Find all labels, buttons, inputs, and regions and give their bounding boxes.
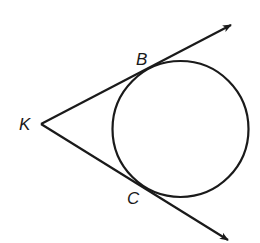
label-b: B — [136, 50, 147, 69]
ray-kb-arrow-icon — [41, 25, 231, 124]
ray-kc-arrow-icon — [41, 124, 228, 240]
circle — [113, 61, 249, 197]
tangent-circle-diagram: K B C — [0, 0, 260, 243]
label-c: C — [127, 189, 140, 208]
label-k: K — [19, 115, 31, 134]
